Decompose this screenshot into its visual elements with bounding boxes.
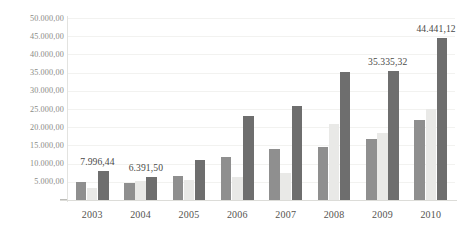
bar-series-c-2010[interactable] xyxy=(437,38,448,200)
y-tick-label: 10.000,00 xyxy=(2,159,64,168)
x-tick-label-2008: 2008 xyxy=(310,209,358,221)
bar-group xyxy=(173,18,206,200)
bar-group xyxy=(366,18,399,200)
bar-series-b-2006[interactable] xyxy=(232,177,243,200)
x-tick-label-2003: 2003 xyxy=(68,209,116,221)
bar-series-a-2007[interactable] xyxy=(269,149,280,200)
bar-group xyxy=(318,18,351,200)
y-axis-origin-tick xyxy=(60,199,67,200)
value-label-2004: 6.391,50 xyxy=(129,163,163,173)
bar-series-c-2003[interactable] xyxy=(98,171,109,200)
x-tick-label-2004: 2004 xyxy=(116,209,164,221)
bar-series-c-2005[interactable] xyxy=(195,160,206,200)
bar-series-b-2009[interactable] xyxy=(377,133,388,200)
bar-series-b-2004[interactable] xyxy=(135,181,146,200)
y-axis: 50.000,0045.000,0040.000,0035.000,0030.0… xyxy=(0,0,64,248)
value-label-2009: 35.335,32 xyxy=(368,57,407,67)
bar-series-c-2004[interactable] xyxy=(146,177,157,200)
bar-series-a-2009[interactable] xyxy=(366,139,377,200)
y-tick-label: 40.000,00 xyxy=(2,50,64,59)
bar-series-a-2003[interactable] xyxy=(76,182,87,200)
x-axis-line xyxy=(60,200,457,201)
bar-group xyxy=(221,18,254,200)
bar-chart: 50.000,0045.000,0040.000,0035.000,0030.0… xyxy=(0,0,463,248)
value-label-2003: 7.996,44 xyxy=(80,157,114,167)
x-tick-label-2006: 2006 xyxy=(213,209,261,221)
y-tick-label: 20.000,00 xyxy=(2,123,64,132)
bar-series-b-2007[interactable] xyxy=(280,173,291,200)
bar-series-b-2010[interactable] xyxy=(426,109,437,200)
bar-series-c-2009[interactable] xyxy=(388,71,399,200)
bar-series-b-2008[interactable] xyxy=(329,124,340,200)
bar-series-b-2005[interactable] xyxy=(184,180,195,200)
x-tick-label-2007: 2007 xyxy=(262,209,310,221)
x-tick-label-2009: 2009 xyxy=(358,209,406,221)
y-tick-label: 35.000,00 xyxy=(2,68,64,77)
y-tick-label: 50.000,00 xyxy=(2,14,64,23)
bar-group xyxy=(269,18,302,200)
x-tick-label-2010: 2010 xyxy=(407,209,455,221)
bar-group xyxy=(414,18,447,200)
bar-series-a-2008[interactable] xyxy=(318,147,329,200)
plot-area: 7.996,446.391,5035.335,3244.441,12 xyxy=(68,18,455,200)
bar-series-c-2008[interactable] xyxy=(340,72,351,200)
y-tick-label: 15.000,00 xyxy=(2,141,64,150)
y-tick-label: 5.000,00 xyxy=(2,177,64,186)
x-axis: 20032004200520062007200820092010 xyxy=(68,205,455,229)
bar-series-b-2003[interactable] xyxy=(87,188,98,200)
bar-series-a-2005[interactable] xyxy=(173,176,184,200)
y-tick-label: 25.000,00 xyxy=(2,105,64,114)
x-tick-label-2005: 2005 xyxy=(165,209,213,221)
bar-series-c-2006[interactable] xyxy=(243,116,254,200)
value-label-2010: 44.441,12 xyxy=(416,24,455,34)
bar-series-a-2006[interactable] xyxy=(221,157,232,200)
bar-series-a-2010[interactable] xyxy=(414,120,425,200)
y-tick-label: 30.000,00 xyxy=(2,86,64,95)
bar-series-c-2007[interactable] xyxy=(292,106,303,200)
bar-group xyxy=(76,18,109,200)
bar-series-a-2004[interactable] xyxy=(124,183,135,200)
y-tick-label: 45.000,00 xyxy=(2,32,64,41)
